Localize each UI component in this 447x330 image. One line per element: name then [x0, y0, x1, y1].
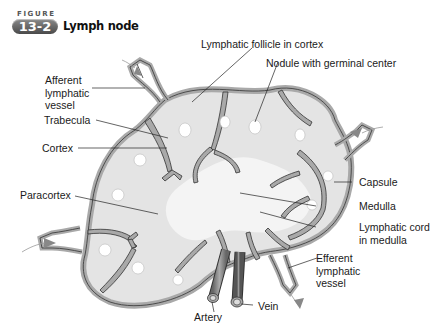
label-lymphatic-cord: Lymphatic cord in medulla: [359, 221, 430, 246]
afferent-vessel-left: [22, 228, 82, 252]
label-vein: Vein: [258, 300, 278, 313]
label-efferent-lymphatic-vessel: Efferent lymphatic vessel: [316, 252, 360, 290]
label-artery: Artery: [194, 311, 222, 324]
afferent-vessel-top: [122, 60, 168, 102]
label-trabecula: Trabecula: [44, 114, 90, 127]
label-paracortex: Paracortex: [20, 189, 71, 202]
label-afferent-lymphatic-vessel: Afferent lymphatic vessel: [45, 74, 89, 112]
label-cortex: Cortex: [42, 142, 73, 155]
label-lymphatic-follicle: Lymphatic follicle in cortex: [201, 38, 323, 51]
label-capsule: Capsule: [359, 176, 398, 189]
label-medulla: Medulla: [359, 200, 396, 213]
label-nodule-germinal-center: Nodule with germinal center: [266, 57, 396, 70]
